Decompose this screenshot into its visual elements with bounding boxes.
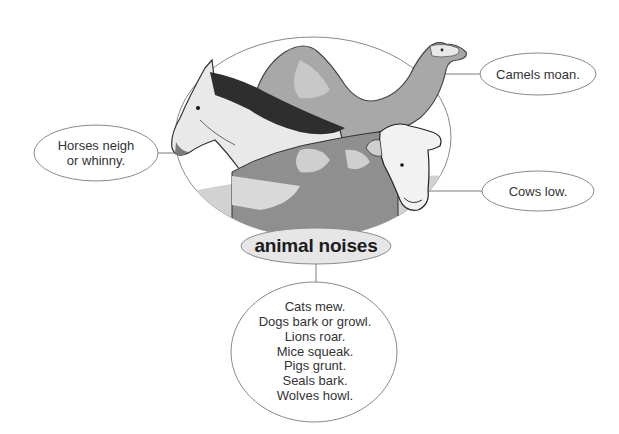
- camels-line-1: Camels moan.: [496, 67, 580, 82]
- label-camels: Camels moan.: [482, 64, 594, 84]
- center-title-text: animal noises: [254, 235, 377, 257]
- list-item: Dogs bark or growl.: [259, 315, 372, 330]
- label-horses: Horses neigh or whinny.: [36, 133, 156, 173]
- horses-line-1: Horses neigh: [58, 138, 135, 153]
- list-item: Mice squeak.: [277, 345, 354, 360]
- label-cows: Cows low.: [484, 181, 592, 201]
- list-item: Pigs grunt.: [284, 359, 346, 374]
- list-item: Cats mew.: [285, 300, 346, 315]
- list-item: Wolves howl.: [277, 389, 353, 404]
- cows-line-1: Cows low.: [509, 184, 568, 199]
- list-text: Cats mew. Dogs bark or growl. Lions roar…: [240, 298, 390, 406]
- animal-illustration: [172, 37, 467, 250]
- center-title: animal noises: [241, 233, 391, 259]
- list-item: Seals bark.: [282, 374, 347, 389]
- horses-line-2: or whinny.: [67, 153, 125, 168]
- list-item: Lions roar.: [285, 330, 346, 345]
